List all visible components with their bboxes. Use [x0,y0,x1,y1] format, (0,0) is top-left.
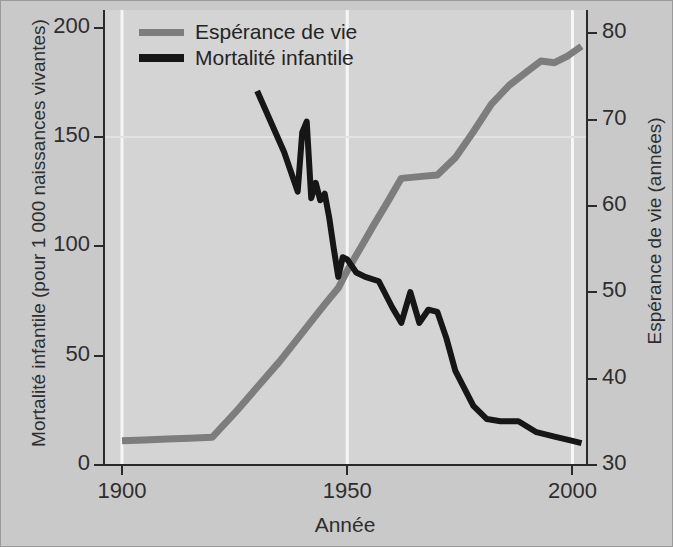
axis-label-x: Année [104,513,586,537]
tick-label-bottom: 1950 [302,478,392,504]
axis-spine-right [586,10,588,465]
plot-area [104,10,586,465]
tick-mark-left [94,245,103,247]
axis-label-left: Mortalité infantile (pour 1 000 naissanc… [28,0,50,468]
tick-label-left: 100 [53,231,90,257]
line-mortalite-infantile [257,91,581,443]
tick-label-right: 50 [602,277,626,303]
tick-mark-right [588,378,597,380]
tick-label-right: 70 [602,105,626,131]
figure-container: Mortalité infantile (pour 1 000 naissanc… [0,0,673,547]
tick-label-right: 40 [602,364,626,390]
tick-label-right: 30 [602,450,626,476]
tick-mark-right [588,464,597,466]
line-esperance-de-vie [122,46,581,441]
tick-mark-bottom [121,466,123,475]
tick-mark-right [588,205,597,207]
tick-mark-bottom [346,466,348,475]
tick-mark-bottom [571,466,573,475]
tick-label-left: 200 [53,13,90,39]
axis-spine-left [103,10,105,465]
tick-label-left: 0 [78,450,90,476]
tick-mark-right [588,32,597,34]
tick-mark-left [94,136,103,138]
legend-label: Espérance de vie [195,20,357,44]
legend: Espérance de vie Mortalité infantile [139,19,357,71]
axis-label-right: Espérance de vie (années) [644,31,666,431]
tick-label-bottom: 1900 [77,478,167,504]
tick-label-right: 80 [602,18,626,44]
legend-label: Mortalité infantile [195,46,354,70]
tick-mark-right [588,291,597,293]
tick-mark-left [94,27,103,29]
tick-label-left: 50 [66,341,90,367]
tick-label-right: 60 [602,191,626,217]
legend-swatch-icon [139,54,184,62]
legend-item-esperance-de-vie: Espérance de vie [139,19,357,45]
legend-item-mortalite-infantile: Mortalité infantile [139,45,357,71]
tick-mark-right [588,119,597,121]
legend-swatch-icon [139,29,184,36]
tick-mark-left [94,464,103,466]
tick-label-bottom: 2000 [527,478,617,504]
tick-mark-left [94,355,103,357]
tick-label-left: 150 [53,122,90,148]
chart-canvas [104,10,586,465]
